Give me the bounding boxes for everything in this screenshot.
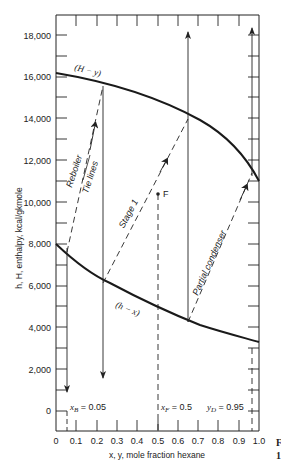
- y-tick-label: 6,000: [28, 281, 51, 291]
- partial-condenser-arrow: [240, 187, 246, 200]
- x-tick-label: 0.6: [172, 436, 185, 446]
- cropped-caption-fragment: F: [276, 437, 281, 448]
- svg-text:yD = 0.95: yD = 0.95: [206, 402, 244, 414]
- y-axis-tick-labels: 0 2,000 4,000 6,000 8,000 10,000 12,000 …: [23, 31, 51, 416]
- y-tick-label: 16,000: [23, 72, 51, 82]
- x-tick-label: 0.1: [70, 436, 83, 446]
- stage1-arrow: [160, 161, 166, 172]
- reboiler-arrow: [90, 125, 95, 150]
- xb-annotation: xB = 0.05: [69, 402, 106, 414]
- x-tick-label: 0.7: [192, 436, 205, 446]
- x-tick-label: 0.3: [111, 436, 124, 446]
- x-tick-label: 0: [53, 436, 58, 446]
- feed-point-label: F: [163, 189, 169, 199]
- vapor-enthalpy-curve: [56, 73, 259, 181]
- y-tick-label: 10,000: [23, 198, 51, 208]
- liquid-enthalpy-curve: [56, 244, 259, 342]
- partial-condenser-label: Partial condenser: [190, 228, 228, 297]
- y-tick-label: 18,000: [23, 31, 51, 41]
- y-tick-label: 4,000: [28, 323, 51, 333]
- liquid-curve-label: (h − x): [114, 300, 141, 319]
- y-tick-label: 14,000: [23, 114, 51, 124]
- x-tick-label: 0.2: [91, 436, 104, 446]
- x-tick-label: 0.4: [131, 436, 144, 446]
- stage1-label: Stage 1: [117, 198, 140, 230]
- svg-text:xB = 0.05: xB = 0.05: [69, 402, 106, 414]
- y-tick-label: 12,000: [23, 156, 51, 166]
- x-tick-label: 0.8: [212, 436, 225, 446]
- y-tick-label: 2,000: [28, 365, 51, 375]
- y-tick-label: 8,000: [28, 239, 51, 249]
- x-axis-ticks: [76, 15, 239, 431]
- x-tick-label: 1.0: [253, 436, 266, 446]
- feed-point: [156, 192, 160, 196]
- stage1-tie-line: [103, 119, 188, 283]
- reboiler-label: Reboiler: [64, 153, 84, 189]
- y-axis-ticks-left: [56, 35, 67, 411]
- y-axis-title: h, H, enthalpy, kcal/gkmole: [14, 187, 24, 289]
- svg-text:xF = 0.5: xF = 0.5: [160, 402, 192, 414]
- enthalpy-composition-diagram: 0 2,000 4,000 6,000 8,000 10,000 12,000 …: [0, 0, 281, 472]
- tie-lines-label: Tie lines: [80, 159, 100, 194]
- x-tick-label: 0.9: [233, 436, 246, 446]
- x-tick-label: 0.5: [152, 436, 165, 446]
- plot-frame: [56, 15, 259, 431]
- y-axis-ticks-right: [248, 35, 259, 411]
- yd-annotation: yD = 0.95: [206, 402, 244, 414]
- xf-annotation: xF = 0.5: [160, 402, 192, 414]
- x-axis-tick-labels: 0 0.1 0.2 0.3 0.4 0.5 0.6 0.7 0.8 0.9 1.…: [53, 436, 265, 446]
- x-axis-title: x, y, mole fraction hexane: [109, 450, 205, 460]
- cropped-caption-fragment: 1: [276, 450, 281, 461]
- y-tick-label: 0: [46, 406, 51, 416]
